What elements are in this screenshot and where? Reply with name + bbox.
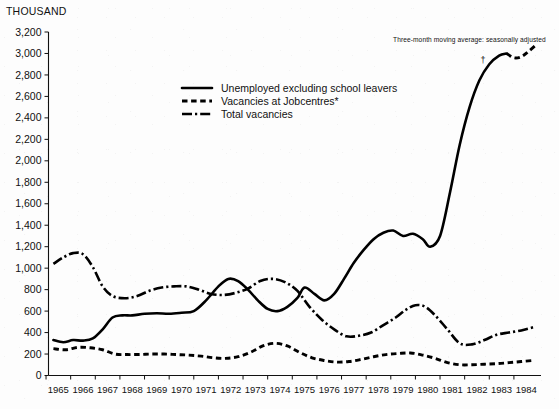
x-tick-label: 1965 <box>48 384 69 395</box>
x-axis: 1965196619671968196919701971197219731974… <box>46 376 541 395</box>
x-tick-label: 1979 <box>393 384 414 395</box>
x-tick-label: 1971 <box>196 384 217 395</box>
x-tick-label: 1976 <box>319 384 340 395</box>
legend-label-unemployed: Unemployed excluding school leavers <box>221 82 397 94</box>
dagger-marker: † <box>480 55 485 65</box>
legend-label-jobcentres: Vacancies at Jobcentres* <box>221 95 339 107</box>
series-line <box>53 343 533 365</box>
x-tick-label: 1967 <box>97 384 118 395</box>
x-tick-label: 1968 <box>122 384 143 395</box>
y-tick-label: 800 <box>24 283 42 295</box>
chart-container: THOUSAND 02004006008001,0001,2001,4001,6… <box>0 0 559 409</box>
y-tick-label: 2,200 <box>15 133 41 145</box>
legend: Unemployed excluding school leavers Vaca… <box>182 82 397 120</box>
y-tick-label: 1,400 <box>15 219 41 231</box>
x-tick-label: 1977 <box>343 384 364 395</box>
series-line <box>53 253 533 345</box>
x-tick-label: 1978 <box>368 384 389 395</box>
y-tick-label: 1,600 <box>15 197 41 209</box>
y-tick-label: 2,600 <box>15 90 41 102</box>
chart-annotation: Three-month moving average: seasonally a… <box>393 36 546 65</box>
y-tick-group: 02004006008001,0001,2001,4001,6001,8002,… <box>15 26 48 382</box>
y-tick-label: 1,200 <box>15 240 41 252</box>
y-tick-label: 0 <box>36 369 42 381</box>
annotation-text: Three-month moving average: seasonally a… <box>393 36 546 44</box>
x-tick-label: 1974 <box>269 384 290 395</box>
y-tick-label: 2,000 <box>15 154 41 166</box>
y-axis: 02004006008001,0001,2001,4001,6001,8002,… <box>15 26 48 382</box>
y-tick-label: 200 <box>24 348 42 360</box>
x-tick-label: 1975 <box>294 384 315 395</box>
axis-unit-label: THOUSAND <box>6 5 67 17</box>
series-line <box>507 45 537 58</box>
x-tick-label: 1966 <box>72 384 93 395</box>
x-tick-label: 1980 <box>417 384 438 395</box>
x-tick-label: 1983 <box>491 384 512 395</box>
y-tick-label: 3,000 <box>15 47 41 59</box>
y-tick-label: 3,200 <box>15 26 41 38</box>
y-tick-label: 2,400 <box>15 111 41 123</box>
legend-label-total-vacancies: Total vacancies <box>221 108 293 120</box>
x-tick-label: 1973 <box>245 384 266 395</box>
legend-item-unemployed: Unemployed excluding school leavers <box>182 82 397 94</box>
x-tick-label: 1981 <box>442 384 463 395</box>
x-tick-group: 1965196619671968196919701971197219731974… <box>46 376 537 395</box>
y-tick-label: 1,800 <box>15 176 41 188</box>
y-tick-label: 2,800 <box>15 69 41 81</box>
x-tick-label: 1984 <box>516 384 537 395</box>
y-tick-label: 1,000 <box>15 262 41 274</box>
x-tick-label: 1972 <box>220 384 241 395</box>
legend-item-total-vacancies: Total vacancies <box>182 108 293 120</box>
x-tick-label: 1982 <box>466 384 487 395</box>
y-tick-label: 400 <box>24 326 42 338</box>
y-tick-label: 600 <box>24 305 42 317</box>
x-tick-label: 1970 <box>171 384 192 395</box>
line-chart: THOUSAND 02004006008001,0001,2001,4001,6… <box>0 0 559 409</box>
x-tick-label: 1969 <box>146 384 167 395</box>
legend-item-jobcentres: Vacancies at Jobcentres* <box>182 95 339 107</box>
